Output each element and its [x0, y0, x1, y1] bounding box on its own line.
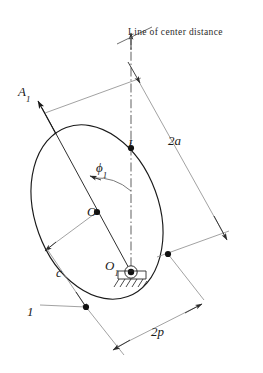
dimension-2p-arrow-left-icon: [113, 340, 130, 350]
vertex-A1-subscript: 1: [26, 94, 30, 104]
dimension-2p: [86, 254, 204, 355]
arrow-up-left-icon: [38, 101, 56, 134]
vertex-A1-label: A1: [18, 85, 30, 101]
hatched-ground-icon: [114, 279, 147, 287]
angle-arc-phi1: [90, 176, 131, 191]
pivot-O1-subscript: 1: [114, 268, 118, 278]
curve-1-label: 1: [27, 305, 34, 318]
angle-phi1-symbol: ϕ: [96, 160, 103, 175]
line-of-center-distance-label: Line of center distance: [128, 28, 223, 38]
vertex-A1-letter: A: [18, 84, 26, 99]
leader-curve-1: [40, 305, 86, 307]
dimension-c-label: c: [56, 266, 62, 279]
angle-phi1-subscript: 1: [103, 170, 107, 180]
point-lower-left-marker: [83, 304, 89, 310]
dimension-c-arrow-icon: [45, 242, 56, 251]
dimension-2p-label: 2p: [151, 325, 164, 338]
dimension-2a-label: 2a: [168, 134, 181, 147]
dimension-2a: [45, 62, 229, 257]
dimension-2a-arrow-top-icon: [128, 62, 140, 83]
dimension-2p-arrow-right-icon: [185, 304, 202, 313]
dimension-2a-arrow-bottom-icon: [214, 216, 227, 240]
center-distance-line: [117, 27, 152, 272]
point-I-label: I: [128, 137, 132, 150]
center-O-label: O: [87, 205, 96, 218]
pivot-O1-letter: O: [105, 258, 114, 273]
angle-phi1-label: ϕ1: [96, 161, 107, 177]
major-axis-line: [38, 101, 131, 272]
ellipse-gear-diagram: Line of center distance A1 I ϕ1 O O1 c 1…: [0, 0, 263, 373]
point-right-marker: [165, 251, 171, 257]
pivot-O1-label: O1: [105, 259, 119, 275]
diagram-canvas: [0, 0, 263, 373]
